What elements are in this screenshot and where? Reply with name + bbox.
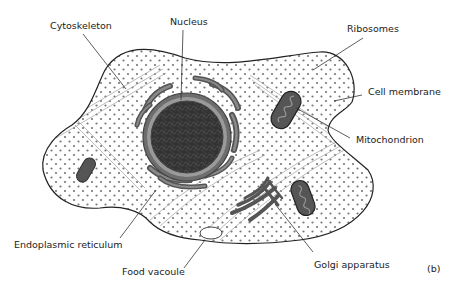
label-golgi-apparatus: Golgi apparatus (314, 259, 390, 270)
label-endoplasmic-reticulum: Endoplasmic reticulum (14, 239, 123, 250)
label-mitochondrion: Mitochondrion (356, 134, 424, 145)
food-vacuole (200, 227, 222, 239)
label-ribosomes: Ribosomes (347, 23, 399, 34)
label-food-vacuole: Food vacoule (122, 266, 185, 277)
label-cell-membrane: Cell membrane (368, 86, 441, 97)
panel-label: (b) (427, 263, 440, 274)
nucleus (143, 93, 231, 181)
label-cytoskeleton: Cytoskeleton (50, 20, 112, 31)
animal-cell-diagram: Cytoskeleton Nucleus Ribosomes Cell memb… (0, 0, 452, 288)
label-nucleus: Nucleus (170, 16, 208, 27)
